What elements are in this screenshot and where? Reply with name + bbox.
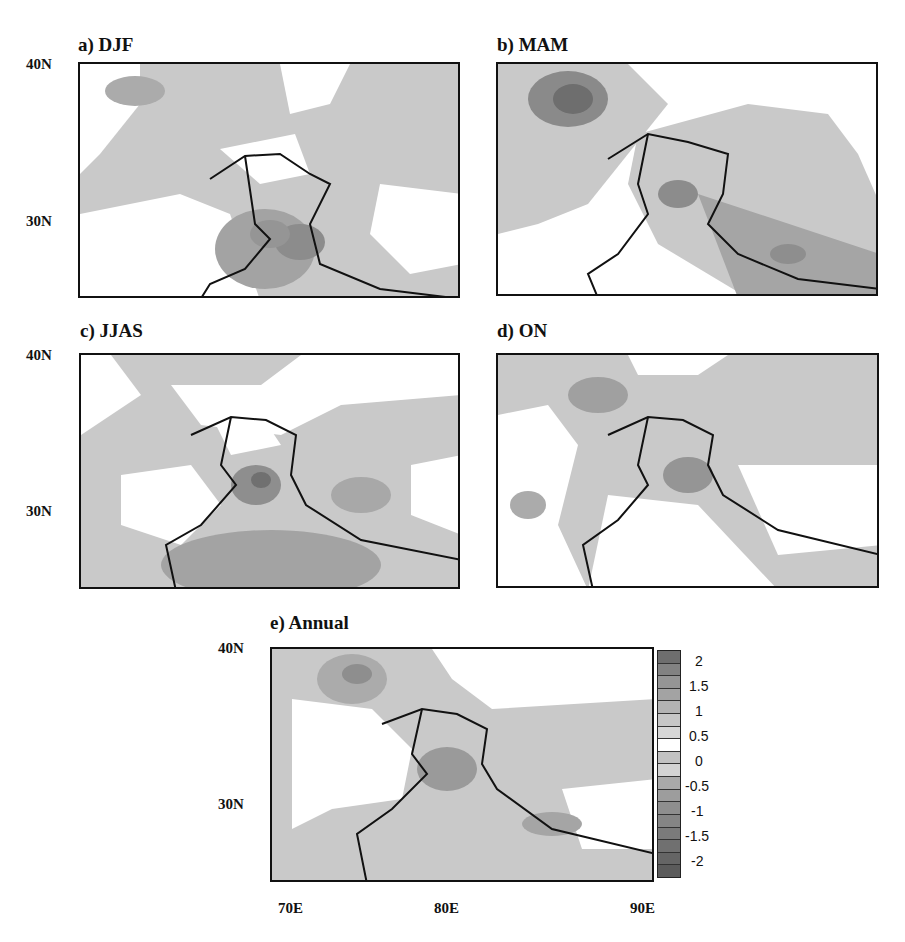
colorbar-swatch xyxy=(658,727,680,740)
colorbar-swatch xyxy=(658,752,680,765)
panel-title: b) MAM xyxy=(497,34,568,56)
colorbar xyxy=(657,650,681,878)
colorbar-swatch xyxy=(658,865,680,877)
lat-label-30n: 30N xyxy=(26,213,52,230)
colorbar-label: -1.5 xyxy=(685,828,709,844)
colorbar-swatch xyxy=(658,739,680,752)
lat-label-30n: 30N xyxy=(218,796,244,813)
colorbar-label: -0.5 xyxy=(685,778,709,794)
lat-label-40n: 40N xyxy=(26,347,52,364)
colorbar-swatch xyxy=(658,815,680,828)
colorbar-swatch xyxy=(658,840,680,853)
lat-label-30n: 30N xyxy=(26,503,52,520)
colorbar-swatch xyxy=(658,790,680,803)
colorbar-swatch xyxy=(658,853,680,866)
map-annual xyxy=(270,647,654,882)
colorbar-label: 1.5 xyxy=(689,678,708,694)
panel-title: e) Annual xyxy=(270,612,349,634)
colorbar-swatch xyxy=(658,764,680,777)
panel-title: d) ON xyxy=(497,320,547,342)
lon-label-90e: 90E xyxy=(630,900,655,917)
lat-label-40n: 40N xyxy=(26,56,52,73)
map-djf xyxy=(78,62,460,298)
colorbar-label: 0 xyxy=(695,753,703,769)
colorbar-swatch xyxy=(658,651,680,664)
lon-label-70e: 70E xyxy=(278,900,303,917)
colorbar-swatch xyxy=(658,714,680,727)
colorbar-swatch xyxy=(658,664,680,677)
map-jjas xyxy=(79,353,460,589)
colorbar-swatch xyxy=(658,676,680,689)
panel-title: c) JJAS xyxy=(80,320,143,342)
colorbar-label: 2 xyxy=(695,653,703,669)
colorbar-label: -2 xyxy=(691,853,703,869)
colorbar-label: -1 xyxy=(691,803,703,819)
map-on xyxy=(496,353,879,588)
lat-label-40n: 40N xyxy=(218,640,244,657)
panel-title: a) DJF xyxy=(78,34,133,56)
map-mam xyxy=(496,62,878,296)
colorbar-label: 1 xyxy=(695,703,703,719)
colorbar-swatch xyxy=(658,802,680,815)
colorbar-swatch xyxy=(658,777,680,790)
colorbar-swatch xyxy=(658,701,680,714)
colorbar-swatch xyxy=(658,828,680,841)
colorbar-label: 0.5 xyxy=(689,728,708,744)
lon-label-80e: 80E xyxy=(434,900,459,917)
colorbar-swatch xyxy=(658,689,680,702)
